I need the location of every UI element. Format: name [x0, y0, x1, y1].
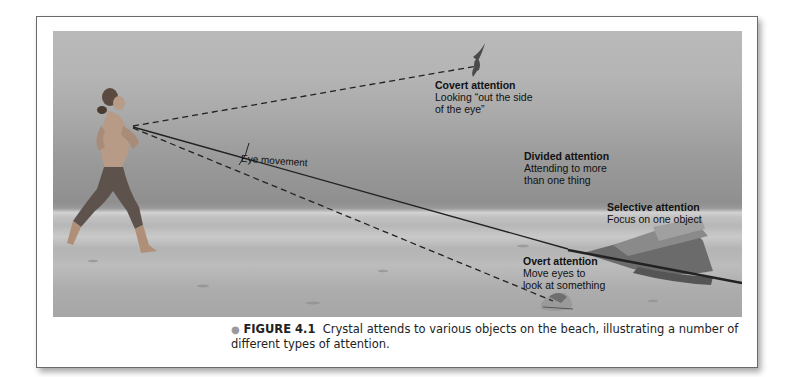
divided-attention-desc-2: than one thing — [524, 174, 609, 186]
runner-figure — [67, 88, 157, 253]
divided-attention-title: Divided attention — [524, 150, 609, 162]
attention-lines — [53, 31, 742, 317]
bullet-icon: ● — [231, 324, 240, 335]
covert-attention-desc-1: Looking “out the side — [435, 91, 532, 103]
beach-photo: Covert attention Looking “out the side o… — [53, 31, 742, 317]
seagull — [472, 43, 485, 77]
selective-attention-desc-1: Focus on one object — [607, 213, 702, 225]
overt-attention-title: Overt attention — [523, 255, 605, 267]
selective-attention-title: Selective attention — [607, 201, 702, 213]
figure-caption: ● FIGURE 4.1 Crystal attends to various … — [231, 322, 741, 352]
overt-attention-desc-2: look at something — [523, 279, 605, 291]
selective-attention-label: Selective attention Focus on one object — [607, 201, 702, 225]
seashell — [541, 293, 573, 311]
figure-frame: Covert attention Looking “out the side o… — [36, 16, 758, 368]
divided-attention-label: Divided attention Attending to more than… — [524, 150, 609, 186]
figure-number: FIGURE 4.1 — [243, 322, 315, 336]
overt-attention-label: Overt attention Move eyes to look at som… — [523, 255, 605, 291]
covert-attention-desc-2: of the eye” — [435, 103, 532, 115]
covert-attention-label: Covert attention Looking “out the side o… — [435, 79, 532, 115]
covert-attention-title: Covert attention — [435, 79, 532, 91]
overt-attention-desc-1: Move eyes to — [523, 267, 605, 279]
divided-attention-desc-1: Attending to more — [524, 162, 609, 174]
